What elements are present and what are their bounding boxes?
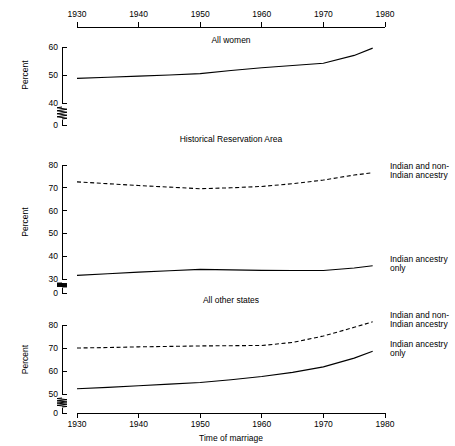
- y-axis-title: Percent: [20, 207, 30, 237]
- x-axis-tick-label: 1980: [376, 419, 395, 429]
- y-axis-tick-label: 40: [49, 251, 59, 261]
- panel-3: 050607080All other statesPercentIndian a…: [20, 295, 449, 418]
- x-axis: 193019401950196019701980: [68, 9, 395, 27]
- y-axis-break-icon: [57, 398, 67, 407]
- series-label-mixed-line2: Indian ancestry: [390, 170, 448, 180]
- chart-figure: 1930194019501960197019801930194019501960…: [0, 0, 455, 446]
- x-axis-title: Time of marriage: [199, 433, 263, 443]
- y-axis-tick-label: 60: [49, 42, 59, 52]
- y-axis-tick-label: 0: [53, 408, 58, 418]
- y-axis-tick-label: 50: [49, 70, 59, 80]
- series-line-solid: [77, 351, 373, 388]
- x-axis-tick-label: 1940: [129, 9, 148, 19]
- y-axis-tick-label: 60: [49, 366, 59, 376]
- series-line-solid: [77, 266, 373, 276]
- x-axis-tick-label: 1930: [68, 419, 87, 429]
- y-axis-title: Percent: [20, 60, 30, 90]
- x-axis-tick-label: 1960: [252, 419, 271, 429]
- x-axis-tick-label: 1950: [191, 419, 210, 429]
- panel-1: 0405060All womenPercent: [20, 35, 373, 130]
- x-axis-tick-label: 1950: [191, 9, 210, 19]
- y-axis-tick-label: 0: [53, 120, 58, 130]
- x-axis-tick-label: 1960: [252, 9, 271, 19]
- y-axis-tick-label: 80: [49, 320, 59, 330]
- panel-title: Historical Reservation Area: [180, 134, 283, 144]
- y-axis-tick-label: 60: [49, 206, 59, 216]
- series-label-only-line2: only: [390, 263, 406, 273]
- y-axis-break-icon: [57, 107, 67, 119]
- y-axis-tick-label: 70: [49, 183, 59, 193]
- x-axis-tick-label: 1970: [314, 419, 333, 429]
- panel-title: All women: [211, 35, 250, 45]
- x-axis-tick-label: 1940: [129, 419, 148, 429]
- y-axis-tick-label: 30: [49, 274, 59, 284]
- series-label-mixed-line2: Indian ancestry: [390, 319, 448, 329]
- y-axis-tick-label: 40: [49, 98, 59, 108]
- series-line-dashed: [77, 322, 373, 348]
- y-axis-tick-label: 80: [49, 160, 59, 170]
- y-axis-tick-label: 50: [49, 228, 59, 238]
- line-chart-canvas: 1930194019501960197019801930194019501960…: [0, 0, 455, 446]
- y-axis-tick-label: 50: [49, 389, 59, 399]
- y-axis-title: Percent: [20, 344, 30, 374]
- series-line-solid: [77, 48, 373, 78]
- x-axis-tick-label: 1980: [376, 9, 395, 19]
- series-line-dashed: [77, 173, 373, 189]
- y-axis-tick-label: 0: [53, 288, 58, 298]
- x-axis-tick-label: 1930: [68, 9, 87, 19]
- series-label-only-line2: only: [390, 348, 406, 358]
- panel-title: All other states: [203, 295, 259, 305]
- panel-2: 0304050607080Historical Reservation Area…: [20, 134, 449, 298]
- x-axis-tick-label: 1970: [314, 9, 333, 19]
- y-axis-break-icon: [57, 283, 67, 287]
- x-axis: 193019401950196019701980: [68, 413, 395, 429]
- y-axis-tick-label: 70: [49, 343, 59, 353]
